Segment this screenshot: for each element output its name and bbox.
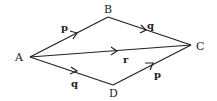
vector-label-ab: p xyxy=(61,22,68,33)
vector-label-dc: p xyxy=(154,69,161,80)
point-label-a: A xyxy=(14,51,24,64)
edge-ab xyxy=(30,17,108,57)
point-label-c: C xyxy=(196,40,204,53)
vector-label-ac: r xyxy=(123,54,129,65)
point-label-b: B xyxy=(104,3,112,16)
vector-label-bc: q xyxy=(147,20,154,31)
vector-diagram: A B C D p q r q p xyxy=(0,0,217,101)
edge-ac xyxy=(30,45,191,57)
vector-label-ad: q xyxy=(71,78,78,89)
point-label-d: D xyxy=(109,87,118,100)
